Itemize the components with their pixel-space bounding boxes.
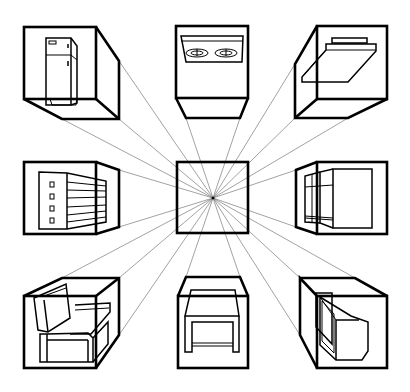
refrigerator-icon: [46, 38, 77, 105]
box-bottom-center: [178, 277, 248, 368]
table-icon: [185, 290, 239, 352]
vanishing-point: [212, 197, 215, 200]
wardrobe-icon: [305, 169, 372, 228]
box-top-center: [176, 26, 248, 118]
box-middle-right: [296, 162, 387, 234]
box-middle-left: [24, 162, 119, 234]
cooktop-icon: [181, 36, 243, 62]
box-bottom-right: [300, 278, 387, 368]
perspective-diagram: One-point perspective: objects in boxes …: [0, 0, 410, 392]
television-icon: [316, 293, 368, 360]
box-top-right: [295, 26, 387, 118]
shelf-icon: [302, 38, 376, 82]
box-bottom-left: [24, 278, 119, 368]
box-top-left: [24, 27, 119, 119]
